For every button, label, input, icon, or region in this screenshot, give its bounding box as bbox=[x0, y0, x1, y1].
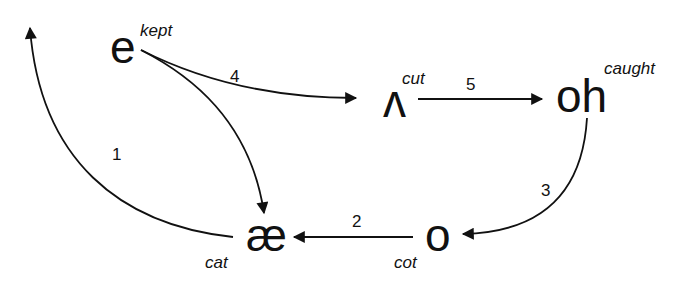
step-label-1: 1 bbox=[112, 145, 121, 164]
node-ae: æ cat bbox=[205, 209, 287, 272]
vowel-symbol-e: e bbox=[110, 21, 136, 73]
step-label-2: 2 bbox=[352, 212, 361, 231]
word-label-cut: cut bbox=[402, 69, 426, 88]
node-e: e kept bbox=[110, 21, 173, 73]
node-caret: ʌ cut bbox=[383, 69, 426, 127]
step-label-3: 3 bbox=[541, 181, 550, 200]
word-label-kept: kept bbox=[140, 21, 173, 40]
vowel-symbol-o: o bbox=[425, 209, 451, 261]
vowel-symbol-ae: æ bbox=[246, 209, 287, 261]
word-label-cot: cot bbox=[394, 253, 418, 272]
arrow-4 bbox=[141, 50, 356, 98]
step-label-5: 5 bbox=[466, 75, 475, 94]
arrow-3 bbox=[463, 118, 587, 234]
vowel-shift-diagram: e kept æ cat ʌ cut oh caught o cot 1 2 3… bbox=[0, 0, 689, 287]
vowel-symbol-oh: oh bbox=[556, 70, 607, 122]
word-label-cat: cat bbox=[205, 253, 229, 272]
node-o: o cot bbox=[394, 209, 451, 272]
step-label-4: 4 bbox=[230, 67, 239, 86]
node-oh: oh caught bbox=[556, 59, 656, 122]
word-label-caught: caught bbox=[604, 59, 656, 78]
